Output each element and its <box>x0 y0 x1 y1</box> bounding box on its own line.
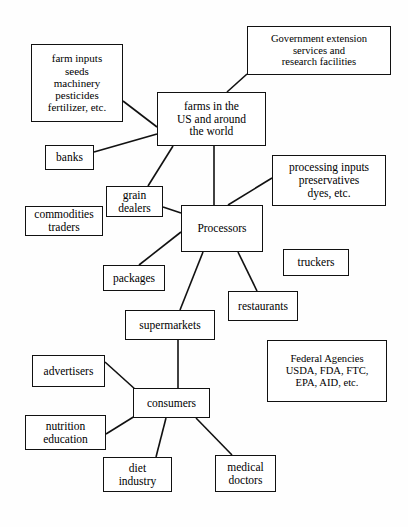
node-label-restaurants: restaurants <box>238 300 288 313</box>
node-label-processors: Processors <box>197 222 246 235</box>
node-gov_extension[interactable]: Government extension services and resear… <box>247 26 391 75</box>
node-banks[interactable]: banks <box>45 145 94 170</box>
node-farms[interactable]: farms in the US and around the world <box>157 92 266 146</box>
connector-gov_extension-to-farms <box>227 74 247 92</box>
node-processing_inputs[interactable]: processing inputs preservatives dyes, et… <box>272 155 386 206</box>
node-medical[interactable]: medical doctors <box>215 455 276 492</box>
node-truckers[interactable]: truckers <box>283 249 349 276</box>
node-label-farm_inputs: farm inputs seeds machinery pesticides f… <box>48 52 107 114</box>
connector-processing_inputs-to-processors <box>228 178 272 205</box>
node-label-processing_inputs: processing inputs preservatives dyes, et… <box>289 161 369 200</box>
connector-farm_inputs-to-farms <box>123 101 157 127</box>
node-label-nutrition: nutrition education <box>43 420 88 446</box>
node-label-federal: Federal Agencies USDA, FDA, FTC, EPA, AI… <box>286 353 369 389</box>
node-packages[interactable]: packages <box>103 265 165 291</box>
node-consumers[interactable]: consumers <box>133 388 210 418</box>
node-label-diet_industry: diet industry <box>119 462 157 488</box>
node-label-grain_dealers: grain dealers <box>118 189 151 215</box>
connector-consumers-to-medical <box>196 418 232 455</box>
node-label-consumers: consumers <box>147 397 196 410</box>
connector-consumers-to-diet_industry <box>156 418 166 457</box>
node-restaurants[interactable]: restaurants <box>228 291 298 321</box>
connector-processors-to-restaurants <box>238 252 257 291</box>
node-label-packages: packages <box>113 272 155 285</box>
node-label-medical: medical doctors <box>227 461 263 487</box>
node-label-farms: farms in the US and around the world <box>177 100 246 139</box>
connector-nutrition-to-consumers <box>106 416 135 434</box>
connector-processors-to-packages <box>139 232 181 265</box>
connector-grain_dealers-to-processors <box>163 207 181 213</box>
concept-map-diagram: farm inputs seeds machinery pesticides f… <box>0 0 408 527</box>
node-commodities[interactable]: commodities traders <box>25 206 103 236</box>
connector-banks-to-farms <box>94 134 157 152</box>
node-supermarkets[interactable]: supermarkets <box>125 310 215 340</box>
connector-processors-to-supermarkets <box>180 252 203 310</box>
node-label-supermarkets: supermarkets <box>139 319 200 332</box>
node-nutrition[interactable]: nutrition education <box>25 415 106 450</box>
node-label-gov_extension: Government extension services and resear… <box>271 33 367 69</box>
node-federal[interactable]: Federal Agencies USDA, FDA, FTC, EPA, AI… <box>267 340 387 402</box>
connector-advertisers-to-consumers <box>105 362 136 390</box>
node-farm_inputs[interactable]: farm inputs seeds machinery pesticides f… <box>31 44 123 122</box>
node-label-commodities: commodities traders <box>34 208 93 234</box>
node-label-truckers: truckers <box>297 256 334 269</box>
node-diet_industry[interactable]: diet industry <box>103 457 172 492</box>
node-grain_dealers[interactable]: grain dealers <box>106 186 163 217</box>
node-advertisers[interactable]: advertisers <box>32 355 105 387</box>
node-label-banks: banks <box>56 151 83 164</box>
connector-farms-to-grain_dealers <box>148 146 173 186</box>
node-label-advertisers: advertisers <box>44 365 94 378</box>
node-processors[interactable]: Processors <box>181 205 263 252</box>
